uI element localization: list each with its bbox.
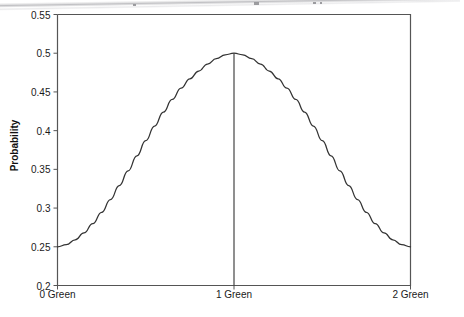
y-axis-tick-label: 0.5 [0, 48, 51, 59]
y-axis-tick-label: 0.55 [0, 9, 51, 20]
x-axis-tick-label: 2 Green [351, 289, 464, 300]
y-axis-tick-label: 0.25 [0, 241, 51, 252]
x-axis-tick-label: 0 Green [0, 289, 118, 300]
y-axis-tick-label: 0.3 [0, 203, 51, 214]
y-axis-title: Probability [9, 110, 20, 182]
x-axis-tick-label: 1 Green [174, 289, 294, 300]
y-axis-tick-label: 0.45 [0, 86, 51, 97]
